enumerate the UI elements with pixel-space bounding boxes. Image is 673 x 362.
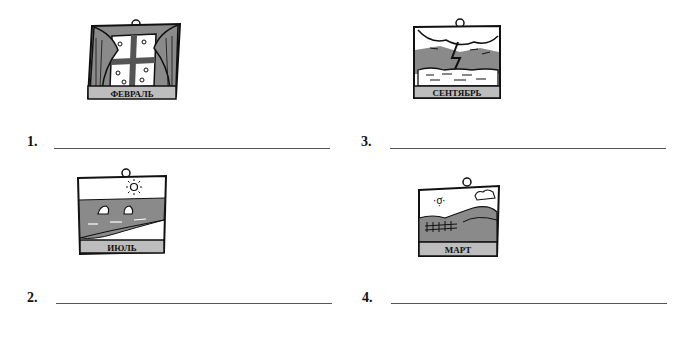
- picture-july: ИЮЛЬ: [74, 168, 170, 258]
- picture-label: ИЮЛЬ: [107, 243, 136, 253]
- picture-label: МАРТ: [445, 245, 472, 255]
- september-illustration-icon: СЕНТЯБРЬ: [410, 18, 504, 104]
- svg-text:·ợ·: ·ợ·: [433, 195, 445, 207]
- answer-number-2: 2.: [27, 290, 38, 306]
- answer-line-2[interactable]: [56, 303, 332, 304]
- answer-line-4[interactable]: [391, 303, 667, 304]
- february-illustration-icon: ФЕВРАЛЬ: [84, 18, 184, 104]
- answer-number-1: 1.: [27, 134, 38, 150]
- picture-february: ФЕВРАЛЬ: [84, 18, 184, 104]
- july-illustration-icon: ИЮЛЬ: [74, 168, 170, 258]
- answer-number-4: 4.: [362, 290, 373, 306]
- picture-label: ФЕВРАЛЬ: [110, 89, 153, 99]
- march-illustration-icon: ·ợ· МАРТ: [413, 178, 503, 260]
- picture-march: ·ợ· МАРТ: [413, 178, 503, 260]
- answer-number-3: 3.: [361, 134, 372, 150]
- picture-label: СЕНТЯБРЬ: [432, 88, 481, 98]
- picture-september: СЕНТЯБРЬ: [410, 18, 504, 104]
- answer-line-1[interactable]: [54, 148, 330, 149]
- answer-line-3[interactable]: [390, 148, 666, 149]
